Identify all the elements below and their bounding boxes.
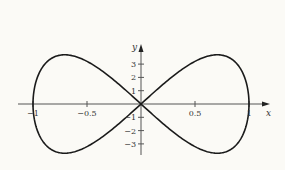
figure-eight-plot: −1−0.50.51321−1−2−3xy <box>0 0 285 170</box>
x-axis-label: x <box>266 108 271 118</box>
tick-labels: −1−0.50.51321−1−2−3xy <box>27 42 271 149</box>
y-tick-label: 2 <box>131 73 136 82</box>
y-tick-label: −1 <box>124 113 136 122</box>
y-axis-label: y <box>131 42 138 52</box>
x-tick-label: 1 <box>246 109 251 118</box>
y-tick-label: 3 <box>131 60 136 69</box>
x-axis-arrow-icon <box>262 102 270 107</box>
axes <box>18 44 270 155</box>
y-axis-arrow-icon <box>139 44 144 52</box>
y-tick-label: −2 <box>124 127 136 136</box>
x-tick-label: −1 <box>27 109 39 118</box>
y-tick-label: −3 <box>124 140 136 149</box>
x-tick-label: 0.5 <box>189 109 202 118</box>
x-tick-label: −0.5 <box>77 109 96 118</box>
y-tick-label: 1 <box>131 87 136 96</box>
